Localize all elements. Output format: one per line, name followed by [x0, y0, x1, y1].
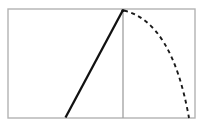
- swing-arc-dashed: [124, 11, 189, 119]
- pendulum-rod: [66, 10, 124, 118]
- apex-point: [121, 9, 124, 12]
- diagram-canvas: Pendulum swing arc diagram: [0, 0, 202, 127]
- geometry-diagram: [0, 0, 202, 127]
- bounding-rectangle: [8, 9, 195, 118]
